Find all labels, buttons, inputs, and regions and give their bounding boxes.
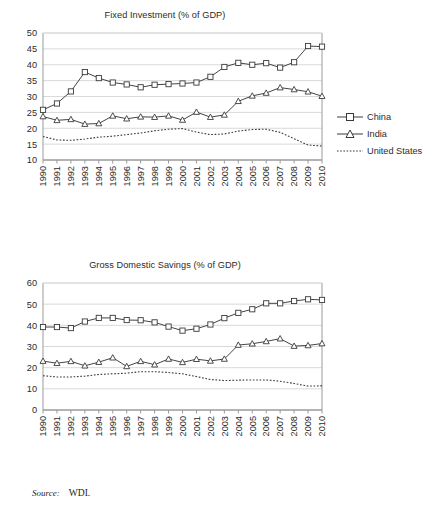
y-tick-label: 30 <box>27 342 37 352</box>
data-point-marker <box>194 80 199 85</box>
y-tick-label: 40 <box>27 60 37 70</box>
data-point-marker <box>138 85 143 90</box>
data-point-marker <box>96 75 101 80</box>
x-tick-label: 2010 <box>317 416 327 436</box>
data-point-marker <box>222 316 227 321</box>
x-tick-label: 1991 <box>52 166 62 186</box>
y-tick-label: 50 <box>27 28 37 38</box>
data-point-marker <box>82 69 87 74</box>
data-point-marker <box>110 315 115 320</box>
y-tick-label: 45 <box>27 44 37 54</box>
x-tick-label: 1992 <box>66 166 76 186</box>
y-tick-label: 10 <box>27 384 37 394</box>
data-point-marker <box>138 318 143 323</box>
x-tick-label: 1999 <box>164 416 174 436</box>
x-tick-label: 1996 <box>122 166 132 186</box>
plot-area-gross-domestic-savings: 0102030405060199019911992199319941995199… <box>0 274 336 474</box>
x-tick-label: 1997 <box>136 166 146 186</box>
data-point-marker <box>180 81 185 86</box>
source-label: Source: <box>32 488 60 498</box>
x-tick-label: 2001 <box>192 416 202 436</box>
y-tick-label: 30 <box>27 92 37 102</box>
x-tick-label: 2010 <box>317 166 327 186</box>
data-point-marker <box>292 60 297 65</box>
data-point-marker <box>180 328 185 333</box>
data-point-marker <box>110 80 115 85</box>
legend-item-china[interactable]: China <box>337 108 422 125</box>
source-note: Source:WDI. <box>32 487 90 498</box>
chart-fixed-investment: Fixed Investment (% of GDP) 101520253035… <box>0 0 439 255</box>
data-point-marker <box>193 109 199 114</box>
legend-label-india: India <box>367 128 387 140</box>
data-point-marker <box>152 320 157 325</box>
legend-label-china: China <box>367 111 391 123</box>
y-tick-label: 40 <box>27 321 37 331</box>
x-tick-label: 2004 <box>234 166 244 186</box>
data-point-marker <box>40 358 46 363</box>
united-states-dotted-line-icon <box>337 145 363 157</box>
data-point-marker <box>166 82 171 87</box>
data-point-marker <box>236 60 241 65</box>
legend-item-united-states[interactable]: United States <box>337 142 422 159</box>
data-point-marker <box>40 107 45 112</box>
x-tick-label: 1993 <box>80 166 90 186</box>
data-point-marker <box>82 319 87 324</box>
y-tick-label: 0 <box>32 405 37 415</box>
x-tick-label: 2002 <box>206 166 216 186</box>
x-tick-label: 2000 <box>178 416 188 436</box>
data-point-marker <box>138 358 144 363</box>
data-point-marker <box>250 62 255 67</box>
data-point-marker <box>193 356 199 361</box>
x-tick-label: 1990 <box>38 166 48 186</box>
x-tick-label: 1996 <box>122 416 132 436</box>
series-line-china <box>43 46 322 110</box>
chart-canvas: 1015202530354045501990199119921993199419… <box>0 24 336 224</box>
y-tick-label: 20 <box>27 124 37 134</box>
data-point-marker <box>110 113 116 118</box>
x-tick-label: 2009 <box>303 166 313 186</box>
figure-page: Fixed Investment (% of GDP) 101520253035… <box>0 0 439 509</box>
x-tick-label: 1990 <box>38 416 48 436</box>
x-tick-label: 2002 <box>206 416 216 436</box>
plot-area-fixed-investment: 1015202530354045501990199119921993199419… <box>0 24 336 224</box>
data-point-marker <box>236 310 241 315</box>
data-point-marker <box>319 297 324 302</box>
data-point-marker <box>68 116 74 121</box>
x-tick-label: 2008 <box>289 166 299 186</box>
data-point-marker <box>124 82 129 87</box>
series-line-united-states <box>43 129 322 146</box>
chart-title: Fixed Investment (% of GDP) <box>0 10 330 20</box>
y-tick-label: 20 <box>27 363 37 373</box>
x-tick-label: 2005 <box>248 416 258 436</box>
data-point-marker <box>124 317 129 322</box>
data-point-marker <box>166 113 172 118</box>
x-tick-label: 1991 <box>52 416 62 436</box>
x-tick-label: 1992 <box>66 416 76 436</box>
legend-fixed-investment: China India United States <box>337 108 422 159</box>
legend-item-india[interactable]: India <box>337 125 422 142</box>
x-tick-label: 1997 <box>136 416 146 436</box>
chart-canvas: 0102030405060199019911992199319941995199… <box>0 274 336 474</box>
data-point-marker <box>305 297 310 302</box>
chart-title: Gross Domestic Savings (% of GDP) <box>0 260 330 270</box>
data-point-marker <box>292 298 297 303</box>
y-tick-label: 35 <box>27 76 37 86</box>
legend-label-united-states: United States <box>367 145 422 157</box>
data-point-marker <box>264 301 269 306</box>
x-tick-label: 2008 <box>289 416 299 436</box>
data-point-marker <box>250 307 255 312</box>
x-tick-label: 2001 <box>192 166 202 186</box>
data-point-marker <box>319 44 324 49</box>
x-tick-label: 2006 <box>262 416 272 436</box>
data-point-marker <box>152 82 157 87</box>
x-tick-label: 2003 <box>220 166 230 186</box>
x-tick-label: 1993 <box>80 416 90 436</box>
x-tick-label: 1995 <box>108 166 118 186</box>
y-tick-label: 50 <box>27 300 37 310</box>
y-tick-label: 25 <box>27 108 37 118</box>
x-tick-label: 2007 <box>275 416 285 436</box>
data-point-marker <box>264 61 269 66</box>
data-point-marker <box>208 74 213 79</box>
chart-gross-domestic-savings: Gross Domestic Savings (% of GDP) 010203… <box>0 255 439 470</box>
data-point-marker <box>40 324 45 329</box>
